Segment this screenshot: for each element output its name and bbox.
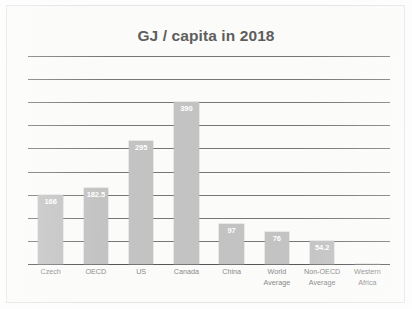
category-label: Czech	[28, 266, 73, 298]
bar-slot: 166	[28, 56, 73, 264]
bar[interactable]: 76	[265, 232, 289, 264]
category-label: China	[209, 266, 254, 298]
bar-value-label: 97	[219, 226, 243, 235]
bar-slot: 97	[209, 56, 254, 264]
chart-title: GJ / capita in 2018	[10, 27, 402, 45]
bar[interactable]: 390	[174, 102, 198, 264]
bar[interactable]: 295	[129, 141, 153, 264]
bar-slot: 182.5	[73, 56, 118, 264]
plot-area: 166182.5295390977654.2	[28, 56, 390, 264]
bar[interactable]: 54.2	[310, 241, 334, 264]
bar-slot	[345, 56, 390, 264]
bar-slot: 390	[164, 56, 209, 264]
bar-value-label: 295	[129, 143, 153, 152]
bar-slot: 76	[254, 56, 299, 264]
bar-slot: 295	[119, 56, 164, 264]
bar-value-label: 54.2	[310, 243, 334, 252]
category-label: US	[119, 266, 164, 298]
bar-value-label: 166	[38, 197, 62, 206]
bar-chart: GJ / capita in 2018 166182.5295390977654…	[10, 8, 402, 301]
bar-slot: 54.2	[300, 56, 345, 264]
bar[interactable]: 97	[219, 224, 243, 264]
bar-value-label: 390	[174, 104, 198, 113]
category-label: Non-OECD Average	[300, 266, 345, 298]
category-label: Canada	[164, 266, 209, 298]
category-label: Western Africa	[345, 266, 390, 298]
category-axis: CzechOECDUSCanadaChinaWorld AverageNon-O…	[28, 266, 390, 298]
bar-value-label: 182.5	[84, 190, 108, 199]
category-label: World Average	[254, 266, 299, 298]
bar[interactable]: 182.5	[84, 188, 108, 264]
bar-series: 166182.5295390977654.2	[28, 56, 390, 264]
category-label: OECD	[73, 266, 118, 298]
axis-baseline	[28, 264, 390, 265]
slide-canvas: GJ / capita in 2018 166182.5295390977654…	[0, 0, 412, 309]
bar[interactable]: 166	[38, 195, 62, 264]
bar-value-label: 76	[265, 234, 289, 243]
